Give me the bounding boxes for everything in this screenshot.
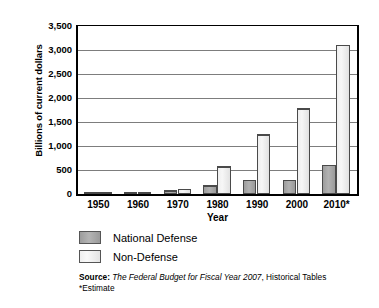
- bar-national-defense-1950: [84, 192, 98, 194]
- bar-top-edge: [84, 192, 97, 193]
- legend-item-non-defense: Non-Defense: [79, 248, 197, 265]
- bar-national-defense-1970: [164, 190, 178, 194]
- legend-swatch-non-defense: [79, 250, 101, 263]
- bar-non-defense-2010: [336, 45, 350, 194]
- y-axis-tick-label: 1,000: [6, 141, 72, 151]
- bar-national-defense-1980: [203, 185, 217, 194]
- legend-item-national-defense: National Defense: [79, 229, 197, 246]
- bar-top-edge: [283, 180, 296, 181]
- bar-top-edge: [217, 166, 230, 167]
- y-axis-tick-label: 0: [6, 189, 72, 199]
- gridline: [78, 50, 357, 51]
- bar-top-edge: [124, 192, 137, 193]
- bar-top-edge: [323, 165, 336, 166]
- legend-label-non-defense: Non-Defense: [113, 251, 178, 263]
- x-axis-tick-label: 2010*: [307, 199, 367, 210]
- chart-legend: National Defense Non-Defense: [79, 229, 197, 267]
- bar-top-edge: [297, 109, 310, 110]
- bar-national-defense-2010: [322, 165, 336, 194]
- legend-label-national-defense: National Defense: [113, 232, 197, 244]
- source-label: Source:: [79, 272, 110, 282]
- plot-area: 05001,0001,5002,0002,5003,0003,500: [76, 25, 359, 196]
- bar-non-defense-1970: [178, 189, 192, 194]
- y-axis-tick-label: 2,500: [6, 69, 72, 79]
- bar-national-defense-1990: [243, 180, 257, 194]
- gridline: [78, 74, 357, 75]
- source-rest: , Historical Tables: [261, 272, 326, 282]
- y-axis-tick-label: 500: [6, 165, 72, 175]
- plot-inner: 05001,0001,5002,0002,5003,0003,500: [78, 26, 357, 194]
- x-axis-title: Year: [76, 212, 359, 223]
- y-axis-tick-label: 3,000: [6, 45, 72, 55]
- bar-top-edge: [98, 192, 111, 193]
- bar-non-defense-1960: [138, 192, 152, 194]
- bar-top-edge: [164, 190, 177, 191]
- y-axis-tick-label: 1,500: [6, 117, 72, 127]
- source-note: Source: The Federal Budget for Fiscal Ye…: [79, 272, 326, 284]
- y-axis-tick-label: 3,500: [6, 21, 72, 31]
- estimate-footnote: *Estimate: [79, 283, 115, 295]
- bar-national-defense-1960: [124, 192, 138, 194]
- bar-non-defense-1950: [98, 192, 112, 194]
- gridline: [78, 146, 357, 147]
- gridline: [78, 122, 357, 123]
- bar-top-edge: [337, 45, 350, 46]
- bar-non-defense-1980: [217, 166, 231, 194]
- bar-top-edge: [243, 180, 256, 181]
- bar-top-edge: [203, 185, 216, 186]
- source-title: The Federal Budget for Fiscal Year 2007: [112, 272, 261, 282]
- bar-top-edge: [138, 192, 151, 193]
- gridline: [78, 98, 357, 99]
- bar-non-defense-2000: [297, 108, 311, 194]
- chart-figure: Billions of current dollars 05001,0001,5…: [0, 0, 379, 308]
- bar-non-defense-1990: [257, 134, 271, 194]
- bar-top-edge: [178, 189, 191, 190]
- y-axis-tick-label: 2,000: [6, 93, 72, 103]
- bar-top-edge: [257, 134, 270, 135]
- legend-swatch-national-defense: [79, 231, 101, 244]
- bar-national-defense-2000: [283, 180, 297, 194]
